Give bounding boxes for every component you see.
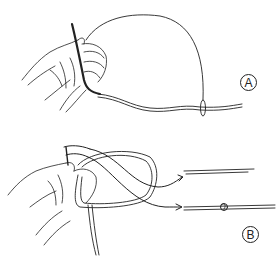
step-b-illustration [0,135,278,269]
hand-icon [22,38,107,112]
step-a-panel: A [0,0,278,135]
step-b-label: B [242,226,259,243]
hand-icon [8,162,96,245]
step-b-panel: B [0,135,278,269]
step-a-label: A [240,74,257,91]
step-a-illustration [0,0,278,135]
